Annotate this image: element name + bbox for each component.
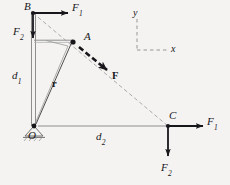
vector-label-F2-at-C: F2 (161, 162, 171, 176)
point-label-A: A (84, 31, 91, 42)
dimension-label-d2-glyph: d (96, 130, 102, 142)
vector-label-F1-at-C-glyph: F (207, 115, 214, 127)
dimension-label-d2: d2 (96, 131, 105, 145)
dimension-label-d1-glyph: d (12, 69, 18, 81)
vector-label-r: r (52, 79, 57, 90)
line-of-action-B-to-C (33, 13, 168, 126)
vector-label-F1-at-C-sub: 1 (214, 123, 218, 132)
point-label-B: B (24, 1, 31, 12)
vector-label-F2-at-B-glyph: F (13, 25, 20, 37)
coordinate-axes-legend (137, 19, 167, 50)
vector-label-F2-at-B: F2 (13, 26, 23, 40)
point-dot-B (31, 11, 35, 15)
vector-label-F2-at-C-glyph: F (161, 161, 168, 173)
vector-label-F1-at-C: F1 (207, 116, 217, 130)
free-body-diagram-figure: B A C O F1 F2 F1 F2 F r d1 d2 y x (0, 0, 230, 185)
point-label-O: O (28, 130, 36, 141)
dimension-label-d2-sub: 2 (102, 138, 106, 147)
brace-A-to-O (34, 41, 68, 127)
vector-label-F2-at-C-sub: 2 (168, 169, 172, 178)
vector-F-at-A (79, 47, 107, 70)
dimension-label-d1: d1 (12, 70, 21, 84)
point-dot-A (70, 39, 75, 44)
vector-label-F1-at-B-sub: 1 (79, 9, 83, 18)
vector-label-F-resultant: F (112, 71, 118, 82)
point-dot-C (166, 124, 170, 128)
axis-label-x: x (171, 44, 175, 54)
diagram-canvas (0, 0, 230, 185)
point-label-C: C (169, 110, 176, 121)
vector-label-F1-at-B-glyph: F (72, 1, 79, 13)
axis-label-y: y (133, 8, 137, 18)
dimension-label-d1-sub: 1 (18, 77, 22, 86)
vector-label-F1-at-B: F1 (72, 2, 82, 16)
point-dot-O (32, 124, 37, 129)
vector-label-F2-at-B-sub: 2 (20, 33, 24, 42)
